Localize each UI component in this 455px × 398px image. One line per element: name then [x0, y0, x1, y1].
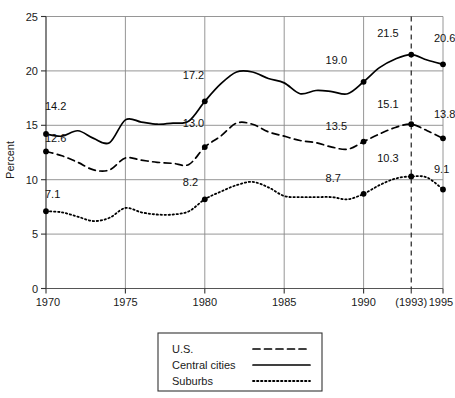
- line-chart: 0510152025 19701975198019851990(1993)199…: [0, 0, 455, 398]
- data-point-label: 8.7: [326, 172, 341, 184]
- data-point-marker: [202, 196, 208, 202]
- series-line-suburbs: [46, 176, 443, 221]
- x-tick-label: (1993): [395, 296, 427, 308]
- y-tick-label: 10: [26, 174, 38, 186]
- data-point-marker: [440, 135, 446, 141]
- series-lines: [46, 55, 443, 221]
- data-point-label: 13.8: [434, 108, 455, 120]
- data-point-marker: [408, 121, 414, 127]
- data-point-label: 20.6: [434, 32, 455, 44]
- data-point-label: 12.6: [45, 132, 66, 144]
- data-point-marker: [361, 139, 367, 145]
- x-axis-tick-labels: 19701975198019851990(1993)1995: [36, 296, 453, 308]
- x-tick-label: 1995: [429, 296, 453, 308]
- data-point-label: 13.5: [326, 120, 347, 132]
- y-axis-title: Percent: [4, 141, 16, 179]
- series-markers: [43, 52, 446, 214]
- data-point-marker: [202, 98, 208, 104]
- data-point-labels: 12.613.013.515.113.814.217.219.021.520.6…: [45, 27, 455, 201]
- data-point-marker: [202, 144, 208, 150]
- data-point-marker: [440, 61, 446, 67]
- legend-label-u-s-: U.S.: [172, 343, 193, 355]
- y-tick-label: 20: [26, 65, 38, 77]
- data-point-label: 21.5: [377, 27, 398, 39]
- data-point-label: 19.0: [326, 54, 347, 66]
- y-axis-tick-labels: 0510152025: [26, 11, 38, 295]
- data-point-label: 15.1: [377, 98, 398, 110]
- chart-figure: 0510152025 19701975198019851990(1993)199…: [0, 0, 455, 398]
- data-point-marker: [440, 187, 446, 193]
- data-point-label: 13.0: [183, 117, 204, 129]
- legend-label-suburbs: Suburbs: [172, 375, 213, 387]
- legend: U.S.Central citiesSuburbs: [158, 333, 322, 391]
- data-point-label: 8.2: [183, 176, 198, 188]
- legend-label-central-cities: Central cities: [172, 359, 236, 371]
- data-point-marker: [361, 191, 367, 197]
- x-tick-label: 1980: [193, 296, 217, 308]
- y-tick-label: 15: [26, 119, 38, 131]
- y-tick-label: 25: [26, 11, 38, 23]
- data-point-label: 17.2: [183, 69, 204, 81]
- y-tick-label: 5: [32, 228, 38, 240]
- data-point-label: 7.1: [45, 188, 60, 200]
- x-tick-label: 1970: [36, 296, 60, 308]
- data-point-marker: [408, 52, 414, 58]
- x-tick-label: 1990: [351, 296, 375, 308]
- y-tick-label: 0: [32, 283, 38, 295]
- data-point-marker: [43, 149, 49, 155]
- data-point-marker: [361, 79, 367, 85]
- x-tick-label: 1975: [113, 296, 137, 308]
- data-point-marker: [408, 174, 414, 180]
- data-point-label: 9.1: [434, 163, 449, 175]
- data-point-marker: [43, 208, 49, 214]
- data-point-label: 14.2: [45, 100, 66, 112]
- data-point-label: 10.3: [377, 152, 398, 164]
- x-tick-label: 1985: [272, 296, 296, 308]
